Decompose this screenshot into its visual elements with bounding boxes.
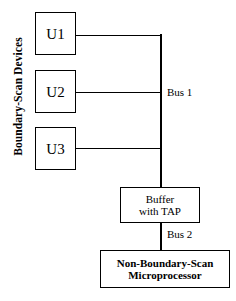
microprocessor-box-line2: Microprocessor — [128, 269, 202, 281]
bus1-label: Bus 1 — [167, 86, 192, 98]
boundary-scan-devices-label: Boundary-Scan Devices — [12, 22, 25, 172]
non-boundary-scan-microprocessor-box: Non-Boundary-Scan Microprocessor — [100, 250, 230, 288]
buffer-with-tap-box: Buffer with TAP — [120, 187, 200, 223]
buffer-box-line1: Buffer — [146, 193, 175, 205]
microprocessor-box-line1: Non-Boundary-Scan — [117, 257, 214, 269]
device-box-u1: U1 — [35, 12, 76, 55]
connector-u3-to-bus1 — [76, 148, 162, 150]
bus2-label: Bus 2 — [167, 228, 192, 240]
device-box-u1-label: U1 — [36, 26, 75, 42]
connector-u1-to-bus1 — [76, 35, 162, 37]
bus2-trunk-line — [160, 222, 162, 251]
device-box-u3: U3 — [35, 127, 76, 170]
device-box-u2: U2 — [35, 70, 76, 113]
device-box-u3-label: U3 — [36, 141, 75, 157]
connector-u2-to-bus1 — [76, 92, 162, 94]
buffer-box-line2: with TAP — [139, 205, 181, 217]
boundary-scan-diagram: Boundary-Scan Devices U1 U2 U3 Bus 1 Bus… — [0, 0, 236, 301]
device-box-u2-label: U2 — [36, 84, 75, 100]
buffer-box-text: Buffer with TAP — [121, 193, 199, 218]
bus1-trunk-line — [160, 34, 162, 188]
microprocessor-box-text: Non-Boundary-Scan Microprocessor — [101, 257, 229, 282]
